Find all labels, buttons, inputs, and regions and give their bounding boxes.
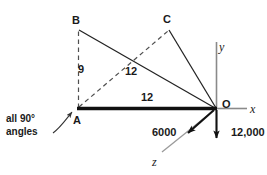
diagram-vector-layer — [0, 0, 267, 175]
right-angle-note-line2: angles — [6, 125, 38, 138]
dimension-label-ab: 9 — [78, 63, 84, 76]
dimension-label-ac: 12 — [125, 65, 137, 78]
member-ac-dashed — [79, 31, 168, 107]
point-label-c: C — [163, 13, 171, 26]
point-label-a: A — [73, 114, 81, 127]
point-label-b: B — [72, 14, 80, 27]
axis-label-x: x — [250, 102, 255, 117]
right-angle-note-line1: all 90° — [6, 112, 38, 125]
diagram-canvas: B C O A 9 12 12 6000 12,000 y x z all 90… — [0, 0, 267, 175]
force-6000-arrow — [188, 110, 214, 133]
note-leader-arrow — [53, 112, 72, 133]
member-co-line — [169, 30, 216, 108]
axis-label-z: z — [152, 155, 157, 170]
force-label-12000: 12,000 — [231, 126, 265, 139]
dimension-label-ao: 12 — [141, 91, 153, 104]
right-angle-note: all 90° angles — [6, 112, 38, 138]
point-label-o: O — [222, 98, 231, 111]
force-label-6000: 6000 — [152, 126, 176, 139]
axis-label-y: y — [219, 40, 224, 55]
